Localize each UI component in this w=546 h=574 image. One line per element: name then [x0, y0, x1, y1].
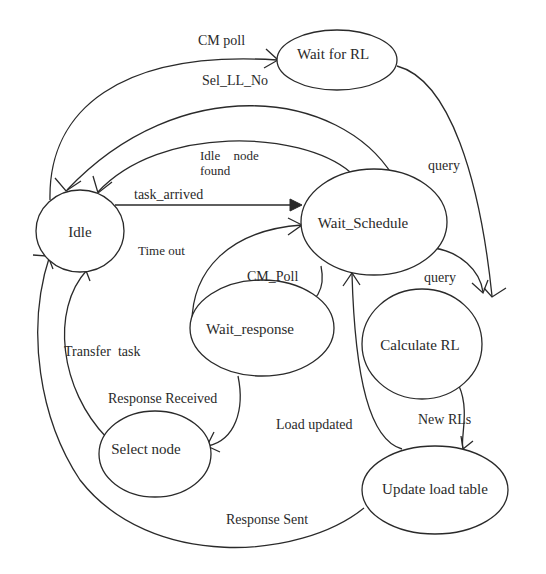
label-query-upper: query [428, 158, 460, 173]
state-update-load-table[interactable]: Update load table [362, 446, 508, 534]
state-label: Update load table [382, 481, 488, 497]
state-label: Calculate RL [380, 337, 460, 353]
state-select-node[interactable]: Select node [99, 411, 211, 497]
arrowhead-icon [93, 176, 112, 193]
state-label: Wait_Schedule [318, 215, 409, 231]
label-response-received: Response Received [108, 391, 217, 406]
state-wait-for-rl[interactable]: Wait for RL [277, 30, 397, 90]
state-wait-schedule[interactable]: Wait_Schedule [301, 169, 447, 275]
label-load-updated: Load updated [276, 417, 353, 432]
label-time-out: Time out [138, 243, 185, 258]
arrowhead-icon [264, 49, 278, 68]
state-label: Idle [68, 224, 92, 240]
arrowhead-icon [484, 288, 506, 297]
arrowhead-icon [290, 199, 302, 211]
state-wait-response[interactable]: Wait_response [190, 280, 334, 376]
label-query-lower: query [424, 270, 456, 285]
edge-response-received [207, 376, 240, 452]
label-response-sent: Response Sent [226, 512, 308, 527]
label-sel-ll-no: Sel_LL_No [202, 73, 268, 88]
label-new-rls: New RLs [418, 412, 471, 427]
label-cm-poll: CM poll [198, 33, 245, 48]
label-cm-poll-lower: CM_Poll [247, 269, 298, 284]
label-task-arrived: task_arrived [134, 187, 203, 202]
edge-cm-poll [50, 49, 278, 200]
label-idle-node-found-2: found [200, 163, 231, 178]
state-diagram: Idle Wait for RL Wait_Schedule Wait_resp… [0, 0, 546, 574]
state-idle[interactable]: Idle [36, 190, 124, 272]
state-calculate-rl[interactable]: Calculate RL [362, 289, 482, 399]
label-idle-node-found-1: Idle node [200, 148, 259, 163]
state-label: Wait_response [206, 321, 294, 337]
state-label: Select node [111, 441, 181, 457]
label-transfer-task: Transfer task [64, 344, 140, 359]
state-label: Wait for RL [297, 46, 369, 62]
